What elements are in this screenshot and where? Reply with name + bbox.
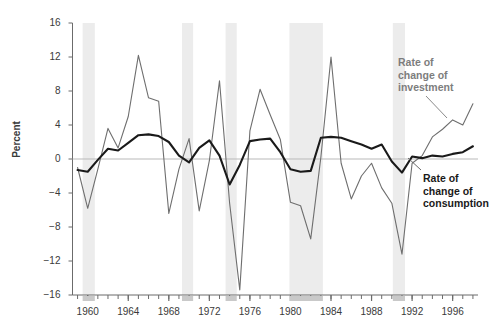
y-tick-16: 16 <box>35 17 61 28</box>
y-tick-minus16: −16 <box>35 289 61 300</box>
annotation-investment-line3: investment <box>398 81 453 94</box>
annotation-consumption-line2: change of <box>423 185 489 198</box>
y-tick-12: 12 <box>35 51 61 62</box>
x-tick-1964: 1964 <box>108 306 148 317</box>
annotation-investment-line2: change of <box>398 69 453 82</box>
annotation-consumption-line1: Rate of <box>423 172 489 185</box>
annotation-consumption-line3: consumption <box>423 197 489 210</box>
economic-line-chart: Percent 1612840−4−8−12−16 19601964196819… <box>0 0 502 329</box>
x-tick-1992: 1992 <box>392 306 432 317</box>
y-tick-0: 0 <box>35 153 61 164</box>
chart-plot-area <box>0 0 502 329</box>
annotation-investment: Rate of change of investment <box>398 56 453 94</box>
x-tick-1980: 1980 <box>270 306 310 317</box>
y-tick-minus8: −8 <box>35 221 61 232</box>
x-tick-1984: 1984 <box>311 306 351 317</box>
y-tick-minus12: −12 <box>35 255 61 266</box>
x-tick-1972: 1972 <box>189 306 229 317</box>
x-tick-1976: 1976 <box>230 306 270 317</box>
y-tick-8: 8 <box>35 85 61 96</box>
leader-line-consumption <box>408 158 421 170</box>
x-tick-1996: 1996 <box>433 306 473 317</box>
y-tick-4: 4 <box>35 119 61 130</box>
x-tick-1968: 1968 <box>149 306 189 317</box>
x-tick-1988: 1988 <box>352 306 392 317</box>
y-tick-minus4: −4 <box>35 187 61 198</box>
x-tick-1960: 1960 <box>68 306 108 317</box>
annotation-investment-line1: Rate of <box>398 56 453 69</box>
annotation-consumption: Rate of change of consumption <box>423 172 489 210</box>
leader-line-investment <box>426 96 447 118</box>
